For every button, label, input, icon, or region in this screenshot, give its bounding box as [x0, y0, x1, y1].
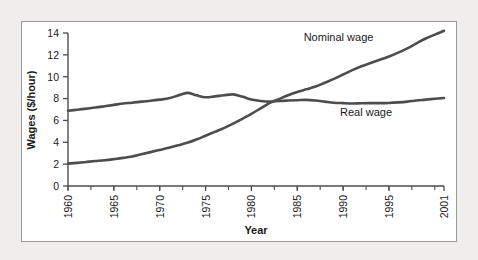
x-axis-ticks: [68, 186, 444, 191]
series-label-nominal-wage: Nominal wage: [304, 31, 374, 43]
y-tick-label: 6: [53, 114, 59, 126]
x-axis-tick-labels: 196019651970197519801985199019952001: [62, 195, 450, 219]
x-tick-label: 1990: [337, 195, 349, 219]
series-label-real-wage: Real wage: [340, 106, 392, 118]
x-tick-label: 1980: [245, 195, 257, 219]
y-tick-label: 2: [53, 158, 59, 170]
wages-line-chart: 02468101214 1960196519701975198019851990…: [22, 22, 456, 241]
data-series-lines: [68, 31, 444, 164]
y-tick-label: 12: [47, 49, 59, 61]
x-tick-label: 1985: [291, 195, 303, 219]
series-line-nominal-wage: [68, 31, 444, 164]
y-tick-label: 0: [53, 180, 59, 192]
y-axis-tick-labels: 02468101214: [47, 27, 59, 192]
chart-frame: 02468101214 1960196519701975198019851990…: [21, 21, 457, 242]
figure-container: 02468101214 1960196519701975198019851990…: [0, 0, 478, 260]
y-tick-label: 10: [47, 71, 59, 83]
x-axis-title: Year: [244, 224, 268, 236]
x-tick-label: 1965: [108, 195, 120, 219]
x-tick-label: 1975: [200, 195, 212, 219]
x-tick-label: 1960: [62, 195, 74, 219]
x-tick-label: 2001: [438, 195, 450, 219]
y-tick-label: 14: [47, 27, 59, 39]
x-tick-label: 1995: [383, 195, 395, 219]
x-tick-label: 1970: [154, 195, 166, 219]
series-annotations: Nominal wageReal wage: [304, 31, 392, 118]
y-tick-label: 8: [53, 92, 59, 104]
y-axis-title: Wages ($/hour): [25, 70, 37, 149]
y-tick-label: 4: [53, 136, 59, 148]
